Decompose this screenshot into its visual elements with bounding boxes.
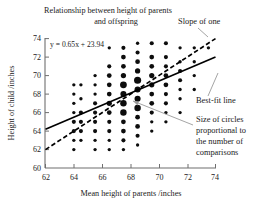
data-point: [164, 41, 168, 45]
y-tick-66: 66: [33, 108, 41, 117]
data-point: [121, 129, 126, 134]
data-point: [149, 64, 154, 69]
data-point: [93, 74, 96, 77]
chart-figure: Relationship between height of parents a…: [0, 0, 264, 205]
slope-of-one-line: [46, 39, 216, 150]
data-point: [164, 101, 168, 105]
x-axis: 62 64 66 68 70 72 74 Mean height of pare…: [42, 164, 219, 198]
data-point: [136, 50, 140, 54]
data-point: [79, 139, 82, 142]
y-axis-label: Height of child /inches: [7, 66, 16, 141]
x-tick-70: 70: [156, 173, 164, 182]
x-tick-labels: 62 64 66 68 70 72 74: [42, 164, 219, 182]
data-point: [93, 101, 97, 105]
data-point: [72, 139, 75, 142]
circle-size-annotation: Size of circles proportional to the numb…: [196, 115, 246, 157]
data-point: [150, 111, 154, 115]
data-point: [164, 92, 168, 96]
y-tick-72: 72: [33, 53, 41, 62]
data-point: [178, 46, 181, 49]
data-point: [164, 64, 168, 68]
data-point: [149, 55, 154, 60]
data-point: [79, 129, 83, 133]
data-point: [79, 120, 83, 124]
data-point: [207, 46, 210, 49]
data-point: [93, 111, 97, 115]
x-axis-label: Mean height of parents /inches: [81, 189, 182, 198]
circle-size-line-2: proportional to: [196, 126, 246, 135]
data-point: [135, 115, 140, 120]
data-point: [136, 42, 139, 45]
data-point: [93, 120, 97, 124]
data-point: [178, 111, 181, 114]
y-tick-62: 62: [33, 145, 41, 154]
x-tick-64: 64: [70, 173, 78, 182]
y-tick-labels: 74 72 70 68 66 64 62 60: [33, 34, 49, 173]
data-point: [107, 129, 111, 133]
data-point: [72, 102, 75, 105]
data-point: [193, 88, 196, 91]
data-point: [108, 139, 111, 142]
data-point: [121, 55, 126, 60]
data-point: [178, 97, 181, 100]
x-tick-68: 68: [127, 173, 135, 182]
chart-title-line1: Relationship between height of parents: [44, 6, 172, 15]
data-point: [93, 83, 96, 86]
best-fit-line-leader: [208, 73, 218, 96]
data-point: [72, 111, 75, 114]
x-tick-74: 74: [211, 173, 219, 182]
data-point: [164, 82, 169, 87]
x-tick-72: 72: [184, 173, 192, 182]
y-tick-60: 60: [33, 164, 41, 173]
data-point: [136, 143, 139, 146]
y-tick-68: 68: [33, 90, 41, 99]
data-point: [135, 68, 140, 73]
data-point: [193, 74, 196, 77]
data-point: [134, 105, 140, 111]
data-point: [107, 73, 112, 78]
slope-of-one-leader: [198, 28, 208, 37]
y-tick-74: 74: [33, 34, 41, 43]
data-point: [164, 55, 168, 59]
data-point: [120, 100, 126, 106]
circle-size-line-3: the number of: [196, 137, 243, 146]
slope-of-one-annotation: Slope of one: [178, 17, 221, 26]
data-point: [135, 59, 140, 64]
scatter-plot-svg: Relationship between height of parents a…: [0, 0, 264, 205]
data-point: [149, 92, 154, 97]
data-point: [120, 81, 127, 88]
data-point: [79, 83, 82, 86]
data-point: [149, 101, 154, 106]
data-point: [93, 139, 96, 142]
data-point: [93, 129, 97, 133]
data-point: [93, 92, 96, 95]
data-point: [150, 129, 153, 132]
data-point: [72, 83, 75, 86]
y-tick-70: 70: [33, 71, 41, 80]
data-point: [93, 148, 96, 151]
data-point: [149, 73, 154, 78]
circle-size-leader: [133, 101, 193, 125]
data-point: [164, 120, 167, 123]
data-point: [107, 120, 111, 124]
data-point: [122, 148, 125, 151]
x-tick-66: 66: [99, 173, 107, 182]
data-point: [135, 96, 141, 102]
data-point: [79, 97, 82, 100]
y-tick-64: 64: [33, 127, 41, 136]
data-point: [72, 148, 75, 151]
data-point: [108, 46, 111, 49]
best-fit-line-annotation: Best-fit line: [196, 96, 236, 105]
data-point: [150, 120, 153, 123]
y-axis: 74 72 70 68 66 64 62 60 Height of child …: [7, 34, 49, 173]
best-fit-line-line: [46, 57, 216, 129]
data-point: [150, 41, 154, 45]
chart-title-line2: and offspring: [94, 17, 138, 26]
data-point: [121, 46, 125, 50]
data-point: [135, 124, 140, 129]
data-point-group: [72, 41, 210, 151]
data-point: [107, 82, 112, 87]
data-point: [178, 78, 182, 82]
regression-equation-label: y = 0.65x + 23.94: [50, 40, 104, 49]
data-point: [107, 110, 112, 115]
